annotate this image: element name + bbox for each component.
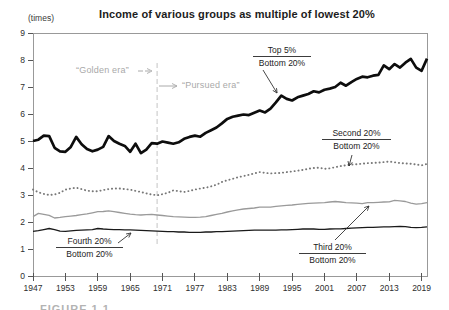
x-tick-label: 1959 [88,283,107,293]
y-tick-label: 9 [20,28,25,38]
x-tick-label: 1971 [153,283,172,293]
plot-area: 1947195319591965197119771983198919952001… [0,0,449,310]
series-line-3 [33,226,427,232]
y-axis-ticks: 0123456789 [20,28,33,281]
x-tick-label: 1989 [250,283,269,293]
annotation-arrows [118,70,369,243]
y-tick-label: 2 [20,217,25,227]
y-tick-label: 3 [20,190,25,200]
x-tick-label: 2013 [380,283,399,293]
x-tick-label: 1965 [121,283,140,293]
y-tick-label: 5 [20,136,25,146]
label-third-denominator: Bottom 20% [299,254,366,266]
cropped-caption-sliver: FIGURE 1.1 [40,303,300,310]
label-fourth-numerator: Fourth 20% [56,235,123,248]
x-tick-label: 2019 [412,283,431,293]
x-tick-label: 1983 [218,283,237,293]
y-tick-label: 4 [20,163,25,173]
chart-figure: Income of various groups as multiple of … [0,0,449,310]
x-tick-label: 2007 [347,283,366,293]
y-tick-label: 7 [20,82,25,92]
x-tick-label: 1947 [24,283,43,293]
label-top5-denominator: Bottom 20% [253,57,311,69]
label-top5-over-bottom20: Top 5% Bottom 20% [253,44,311,69]
label-third-numerator: Third 20% [299,241,366,254]
series-line-1 [33,162,427,196]
pursued-era-label: “Pursued era” [182,80,240,90]
x-tick-label: 1977 [185,283,204,293]
series-line-2 [33,200,427,218]
label-second-over-bottom20: Second 20% Bottom 20% [322,127,391,152]
y-tick-label: 1 [20,244,25,254]
y-tick-label: 8 [20,55,25,65]
label-fourth-over-bottom20: Fourth 20% Bottom 20% [56,235,123,260]
y-tick-label: 0 [20,271,25,281]
y-tick-label: 6 [20,109,25,119]
x-tick-label: 1995 [283,283,302,293]
label-fourth-denominator: Bottom 20% [56,248,123,260]
label-second-numerator: Second 20% [322,127,391,140]
label-third-over-bottom20: Third 20% Bottom 20% [299,241,366,266]
x-tick-label: 2001 [315,283,334,293]
label-second-denominator: Bottom 20% [322,140,391,152]
label-top5-numerator: Top 5% [253,44,311,57]
x-tick-label: 1953 [56,283,75,293]
golden-era-label: “Golden era” [76,65,129,75]
